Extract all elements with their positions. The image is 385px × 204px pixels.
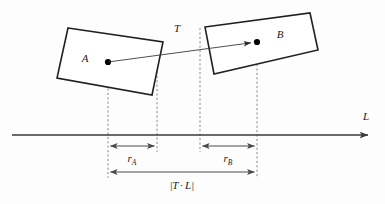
- measure-separation-label: |T·L|: [170, 179, 194, 191]
- diagram-canvas: A B T L rA rB: [0, 0, 385, 204]
- measure-separation: |T·L|: [111, 172, 255, 191]
- measure-radius-a: rA: [111, 146, 155, 167]
- separation-dot-operator: ·: [180, 179, 184, 191]
- measure-radius-b-label: rB: [224, 152, 233, 167]
- separation-l: L: [184, 179, 191, 191]
- box-a-label: A: [81, 52, 89, 64]
- box-b-center-dot: [254, 39, 260, 45]
- measure-radius-b-subscript: B: [228, 158, 233, 167]
- measure-radius-a-label: rA: [128, 152, 137, 167]
- vector-t-label: T: [174, 22, 181, 34]
- bounding-box-b: B: [205, 13, 318, 74]
- axis-l-label: L: [362, 110, 369, 122]
- separation-close-bar: |: [192, 179, 194, 191]
- box-b-label: B: [277, 28, 284, 40]
- axis-l-group: L: [12, 110, 369, 135]
- measure-radius-b: rB: [203, 146, 255, 167]
- box-b-outline: [205, 13, 318, 74]
- measure-radius-a-subscript: A: [131, 158, 137, 167]
- separation-t: T: [172, 179, 179, 191]
- obb-projection-diagram: A B T L rA rB: [0, 0, 385, 204]
